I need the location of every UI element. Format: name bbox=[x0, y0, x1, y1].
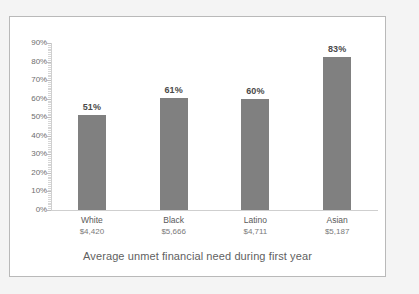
bar-value-label: 60% bbox=[246, 86, 264, 96]
category-sublabel-amount: $4,711 bbox=[215, 226, 297, 238]
category-name: Asian bbox=[296, 214, 378, 226]
bar-value-label: 51% bbox=[83, 102, 101, 112]
bar[interactable] bbox=[323, 57, 351, 210]
y-axis-tick-label: 20% bbox=[13, 169, 47, 177]
category-label-group: Asian$5,187 bbox=[296, 214, 378, 238]
y-axis-labels: 90%80%70%60%50%40%30%20%10%0% bbox=[10, 43, 47, 210]
category-label-group: Latino$4,711 bbox=[215, 214, 297, 238]
bar[interactable] bbox=[241, 99, 269, 210]
category-name: Black bbox=[133, 214, 215, 226]
category-label-group: White$4,420 bbox=[51, 214, 133, 238]
y-axis-tick-label: 90% bbox=[13, 39, 47, 47]
bar-value-label: 61% bbox=[165, 85, 183, 95]
bar-slot: 51% bbox=[51, 43, 133, 210]
bar-slot: 61% bbox=[133, 43, 215, 210]
category-name: White bbox=[51, 214, 133, 226]
bar-slot: 83% bbox=[296, 43, 378, 210]
bar[interactable] bbox=[160, 98, 188, 210]
y-axis-tick-label: 70% bbox=[13, 76, 47, 84]
bar-value-label: 83% bbox=[328, 44, 346, 54]
chart-card: 90%80%70%60%50%40%30%20%10%0% 51%61%60%8… bbox=[9, 16, 386, 277]
y-axis-tick-label: 50% bbox=[13, 113, 47, 121]
category-label-group: Black$5,666 bbox=[133, 214, 215, 238]
bar-series: 51%61%60%83% bbox=[51, 43, 378, 210]
category-sublabel-amount: $4,420 bbox=[51, 226, 133, 238]
y-axis-tick-label: 0% bbox=[13, 206, 47, 214]
y-axis-tick-label: 30% bbox=[13, 150, 47, 158]
bar[interactable] bbox=[78, 115, 106, 210]
y-axis-tick-label: 10% bbox=[13, 187, 47, 195]
category-sublabel-amount: $5,187 bbox=[296, 226, 378, 238]
chart-caption: Average unmet financial need during firs… bbox=[10, 249, 385, 263]
x-axis-line bbox=[51, 210, 378, 211]
y-axis-tick-label: 80% bbox=[13, 58, 47, 66]
x-axis-categories: White$4,420Black$5,666Latino$4,711Asian$… bbox=[51, 214, 378, 248]
y-axis-tick-label: 40% bbox=[13, 132, 47, 140]
y-axis-tick-label: 60% bbox=[13, 95, 47, 103]
category-name: Latino bbox=[215, 214, 297, 226]
category-sublabel-amount: $5,666 bbox=[133, 226, 215, 238]
bar-slot: 60% bbox=[215, 43, 297, 210]
